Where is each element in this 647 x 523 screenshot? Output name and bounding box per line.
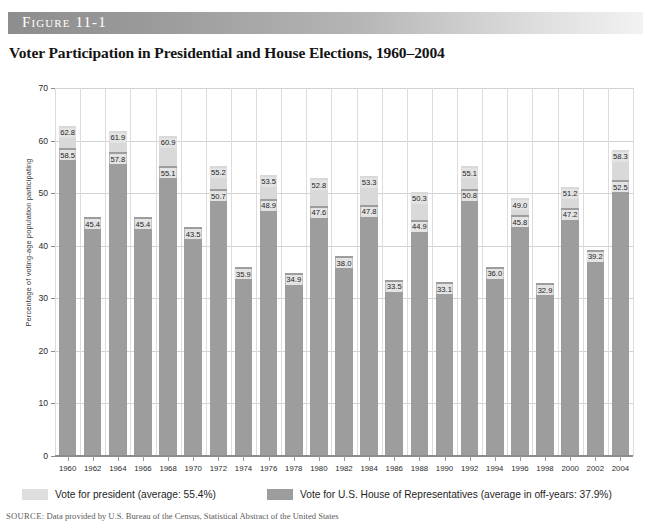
y-axis-tick-label: 60 xyxy=(38,136,48,146)
bar-value-house: 50.7 xyxy=(210,191,227,201)
bar-value-house: 48.9 xyxy=(260,201,277,211)
bar-segment-house[interactable]: 58.5 xyxy=(59,148,77,456)
bar-group[interactable]: 61.957.8 xyxy=(109,131,127,456)
x-axis-tick-mark xyxy=(620,456,621,461)
figure-header-bar: Figure 11-1 xyxy=(8,12,643,34)
figure-label: Figure 11-1 xyxy=(22,14,107,31)
bar-group[interactable]: 45.4 xyxy=(84,217,102,456)
bar-segment-house[interactable]: 47.6 xyxy=(310,206,328,456)
bar-segment-president[interactable]: 61.9 xyxy=(109,131,127,153)
x-axis-tick-label: 1988 xyxy=(411,464,428,473)
bar-segment-president[interactable]: 50.3 xyxy=(411,192,429,220)
bar-segment-house[interactable]: 38.0 xyxy=(335,256,353,456)
bar-group[interactable]: 53.347.8 xyxy=(360,176,378,456)
bar-segment-president[interactable]: 52.8 xyxy=(310,178,328,205)
bar-segment-house[interactable]: 36.0 xyxy=(486,267,504,456)
bar-group[interactable]: 39.2 xyxy=(587,250,605,456)
bar-group[interactable]: 35.9 xyxy=(235,267,253,456)
y-axis-tick-label: 70 xyxy=(38,83,48,93)
x-axis-tick-mark xyxy=(595,456,596,461)
gridline-vertical xyxy=(331,88,332,456)
y-axis-tick-label: 30 xyxy=(38,293,48,303)
x-axis-tick-mark xyxy=(369,456,370,461)
bar-group[interactable]: 34.9 xyxy=(285,273,303,456)
bar-segment-house[interactable]: 33.1 xyxy=(436,282,454,456)
bar-segment-house[interactable]: 39.2 xyxy=(587,250,605,456)
bar-segment-president[interactable]: 53.5 xyxy=(260,175,278,199)
bar-group[interactable]: 45.4 xyxy=(134,217,152,456)
bar-group[interactable]: 60.955.1 xyxy=(159,136,177,456)
bar-segment-house[interactable]: 55.1 xyxy=(159,166,177,456)
x-axis-tick-label: 1994 xyxy=(486,464,503,473)
bar-segment-house[interactable]: 45.4 xyxy=(84,217,102,456)
figure-page: Figure 11-1 Voter Participation in Presi… xyxy=(0,0,647,523)
bar-group[interactable]: 50.344.9 xyxy=(411,192,429,456)
bar-segment-house[interactable]: 50.8 xyxy=(461,189,479,456)
bar-segment-house[interactable]: 45.8 xyxy=(511,215,529,456)
bar-segment-president[interactable]: 58.3 xyxy=(612,150,630,180)
gridline-vertical xyxy=(432,88,433,456)
bar-segment-president[interactable]: 53.3 xyxy=(360,176,378,205)
bar-group[interactable]: 55.250.7 xyxy=(210,166,228,456)
bar-segment-president[interactable]: 60.9 xyxy=(159,136,177,166)
x-axis-tick-label: 1978 xyxy=(285,464,302,473)
bar-segment-president[interactable]: 51.2 xyxy=(561,187,579,208)
x-axis-tick-label: 1996 xyxy=(511,464,528,473)
bar-segment-house[interactable]: 34.9 xyxy=(285,273,303,456)
bar-segment-house[interactable]: 47.2 xyxy=(561,208,579,456)
bar-group[interactable]: 32.9 xyxy=(536,283,554,456)
bar-value-house: 55.1 xyxy=(160,168,177,178)
bar-value-house: 47.6 xyxy=(310,208,327,218)
gridline-vertical xyxy=(231,88,232,456)
bar-group[interactable]: 33.1 xyxy=(436,282,454,456)
bar-group[interactable]: 33.5 xyxy=(385,280,403,456)
bar-segment-president[interactable]: 55.1 xyxy=(461,166,479,189)
x-axis-tick-label: 1976 xyxy=(260,464,277,473)
bar-value-house: 45.8 xyxy=(512,217,529,227)
bar-segment-house[interactable]: 33.5 xyxy=(385,280,403,456)
y-axis-title: Percentage of voting-age population part… xyxy=(24,133,33,353)
bar-group[interactable]: 55.150.8 xyxy=(461,166,479,456)
bar-segment-president[interactable]: 49.0 xyxy=(511,198,529,215)
bar-segment-house[interactable]: 35.9 xyxy=(235,267,253,456)
bar-segment-house[interactable]: 32.9 xyxy=(536,283,554,456)
bar-group[interactable]: 62.858.5 xyxy=(59,126,77,456)
bar-segment-house[interactable]: 48.9 xyxy=(260,199,278,456)
bar-value-house: 58.5 xyxy=(59,150,76,160)
legend-label-house: Vote for U.S. House of Representatives (… xyxy=(300,489,612,500)
bar-value-president: 58.3 xyxy=(612,152,629,162)
bar-segment-house[interactable]: 44.9 xyxy=(411,220,429,456)
bar-group[interactable]: 38.0 xyxy=(335,256,353,456)
x-axis-tick-label: 1982 xyxy=(335,464,352,473)
bar-group[interactable]: 49.045.8 xyxy=(511,198,529,456)
bar-segment-house[interactable]: 43.5 xyxy=(184,227,202,456)
x-axis-tick-label: 1990 xyxy=(436,464,453,473)
bar-group[interactable]: 58.352.5 xyxy=(612,150,630,456)
bar-group[interactable]: 53.548.9 xyxy=(260,175,278,456)
bar-group[interactable]: 43.5 xyxy=(184,227,202,456)
bar-group[interactable]: 51.247.2 xyxy=(561,187,579,456)
bar-value-president: 55.1 xyxy=(461,168,478,178)
x-axis-tick-label: 1968 xyxy=(159,464,176,473)
bar-value-president: 55.2 xyxy=(210,168,227,178)
bar-value-president: 60.9 xyxy=(160,138,177,148)
bar-segment-president[interactable]: 62.8 xyxy=(59,126,77,149)
gridline-vertical xyxy=(532,88,533,456)
bar-value-president: 53.5 xyxy=(260,177,277,187)
bar-segment-house[interactable]: 47.8 xyxy=(360,205,378,456)
bar-group[interactable]: 52.847.6 xyxy=(310,178,328,456)
x-axis-tick-label: 1962 xyxy=(84,464,101,473)
x-axis-tick-label: 1972 xyxy=(210,464,227,473)
bar-value-house: 32.9 xyxy=(537,285,554,295)
chart-legend: Vote for president (average: 55.4%) Vote… xyxy=(0,487,647,507)
bar-segment-house[interactable]: 57.8 xyxy=(109,152,127,456)
x-axis-tick-mark xyxy=(68,456,69,461)
bar-segment-house[interactable]: 45.4 xyxy=(134,217,152,456)
bar-segment-president[interactable]: 55.2 xyxy=(210,166,228,190)
bar-group[interactable]: 36.0 xyxy=(486,267,504,456)
bar-segment-house[interactable]: 50.7 xyxy=(210,189,228,456)
legend-swatch-house-icon xyxy=(267,489,293,500)
bar-value-house: 47.2 xyxy=(562,210,579,220)
bar-value-president: 53.3 xyxy=(361,178,378,188)
bar-segment-house[interactable]: 52.5 xyxy=(612,180,630,456)
